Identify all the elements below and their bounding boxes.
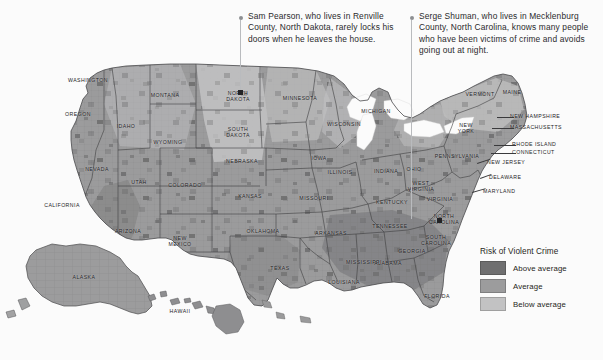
annotation-endpoint-marker [437,218,442,223]
legend-item-below-average: Below average [480,297,598,311]
legend-swatch-below-average [480,297,506,311]
legend-label-below-average: Below average [513,300,566,309]
map-figure: WASHINGTONOREGONIDAHOMONTANANEVADAUTAHWY… [0,0,603,360]
legend-label-above-average: Above average [513,264,567,273]
legend-swatch-above-average [480,261,506,275]
legend-item-average: Average [480,279,598,293]
legend-title: Risk of Violent Crime [480,247,598,256]
legend: Risk of Violent Crime Above average Aver… [480,247,598,315]
legend-item-above-average: Above average [480,261,598,275]
legend-label-average: Average [513,282,543,291]
legend-swatch-average [480,279,506,293]
annotation-leader-line [411,20,412,219]
annotation-text: Serge Shuman, who lives in Mecklenburg C… [419,11,595,57]
